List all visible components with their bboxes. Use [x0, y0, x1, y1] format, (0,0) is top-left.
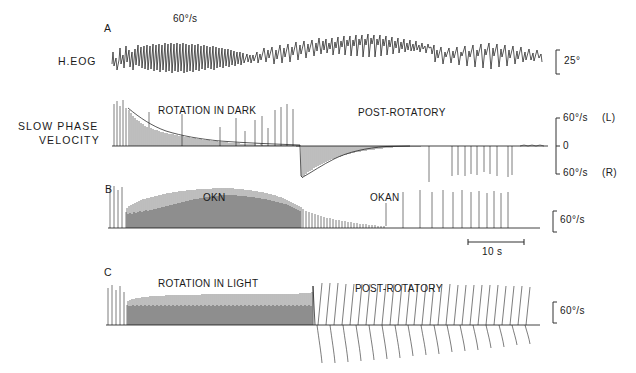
panel-c-transition [313, 286, 315, 325]
panel-c-onset-spikes [108, 285, 124, 325]
panel-c-trace-svg [0, 0, 636, 373]
panel-c-rotation-light-block [127, 292, 312, 325]
panel-c-scale-bracket [553, 302, 557, 323]
panel-c-post-rotatory-upper-beats [318, 283, 530, 325]
panel-c-scale-label: 60°/s [560, 306, 585, 316]
figure-canvas: 60°/s A H.EOG 25° SLOW PHASE VELOCITY RO… [0, 0, 636, 373]
panel-c-post-rotatory-lower-lines [317, 325, 530, 363]
